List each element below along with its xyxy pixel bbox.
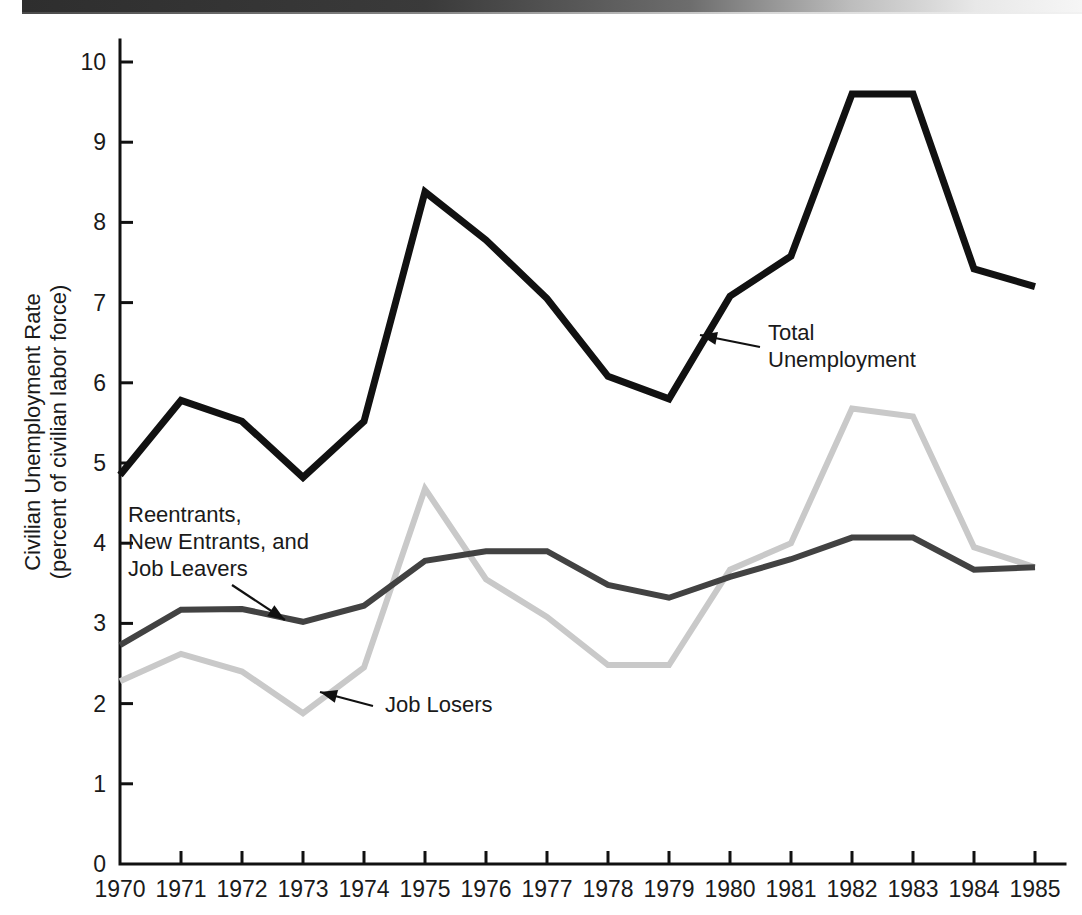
- x-axis-tick-label: 1975: [399, 876, 450, 902]
- x-axis-tick-label: 1972: [216, 876, 267, 902]
- annotation-label: Job Leavers: [128, 556, 248, 581]
- x-axis-tick-label: 1978: [582, 876, 633, 902]
- annotation-label: New Entrants, and: [128, 529, 309, 554]
- series-line-job-losers: [120, 408, 1035, 713]
- figure-canvas: 0123456789101970197119721973197419751976…: [0, 0, 1082, 915]
- annotation-label: Unemployment: [768, 347, 916, 372]
- y-axis-title: Civilian Unemployment Rate(percent of ci…: [20, 285, 71, 580]
- y-axis-tick-label: 3: [93, 610, 106, 636]
- y-axis-title-line1: Civilian Unemployment Rate: [20, 293, 45, 571]
- annotation-label: Reentrants,: [128, 502, 242, 527]
- y-axis-tick-label: 2: [93, 691, 106, 717]
- y-axis-tick-label: 6: [93, 370, 106, 396]
- chart-annotations: TotalUnemploymentReentrants,New Entrants…: [128, 320, 916, 717]
- annotation-reentrants-new-entrants-job-leavers: Reentrants,New Entrants, andJob Leavers: [128, 502, 309, 620]
- annotation-label: Total: [768, 320, 814, 345]
- x-axis-tick-label: 1977: [521, 876, 572, 902]
- x-axis-tick-label: 1982: [826, 876, 877, 902]
- x-axis-tick-label: 1974: [338, 876, 389, 902]
- x-axis-tick-label: 1973: [277, 876, 328, 902]
- x-axis-tick-label: 1985: [1009, 876, 1060, 902]
- x-axis-tick-label: 1976: [460, 876, 511, 902]
- y-axis-tick-label: 10: [80, 49, 106, 75]
- annotation-job-losers: Job Losers: [320, 690, 493, 717]
- annotation-total-unemployment: TotalUnemployment: [700, 320, 916, 372]
- x-axis-tick-label: 1984: [948, 876, 999, 902]
- x-axis-tick-label: 1971: [155, 876, 206, 902]
- series-line-total-unemployment: [120, 94, 1035, 477]
- x-axis-tick-label: 1981: [765, 876, 816, 902]
- y-axis-tick-label: 7: [93, 290, 106, 316]
- y-axis-tick-label: 4: [93, 530, 106, 556]
- axis-lines: [120, 40, 1065, 864]
- y-axis-tick-label: 9: [93, 129, 106, 155]
- series-lines: [120, 94, 1035, 713]
- x-axis-tick-label: 1970: [94, 876, 145, 902]
- y-axis-tick-label: 5: [93, 450, 106, 476]
- y-axis-title-line2: (percent of civilian labor force): [46, 285, 71, 580]
- y-axis-tick-label: 1: [93, 771, 106, 797]
- x-axis-tick-label: 1980: [704, 876, 755, 902]
- x-axis-tick-label: 1983: [887, 876, 938, 902]
- y-axis-tick-label: 0: [93, 851, 106, 877]
- axes: 0123456789101970197119721973197419751976…: [80, 40, 1065, 902]
- line-chart: 0123456789101970197119721973197419751976…: [0, 0, 1082, 915]
- y-axis-tick-label: 8: [93, 209, 106, 235]
- annotation-label: Job Losers: [385, 692, 493, 717]
- x-axis-tick-label: 1979: [643, 876, 694, 902]
